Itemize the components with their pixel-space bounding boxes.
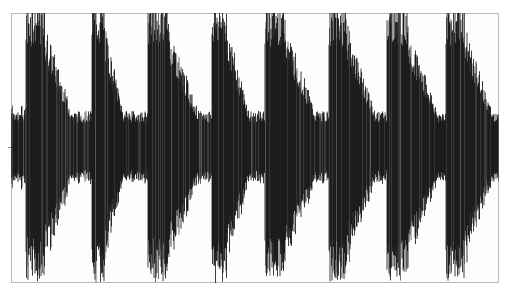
waveform-plot [11,13,499,283]
